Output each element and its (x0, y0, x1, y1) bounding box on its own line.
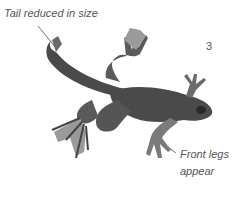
tail-tip (52, 36, 62, 52)
tail (46, 40, 130, 98)
front-leg-left (146, 118, 178, 158)
front-legs-label-line1: Front legs (180, 148, 229, 161)
front-legs-label-line2: appear (180, 165, 214, 178)
front-leg-right (184, 74, 206, 98)
tail-leader-line (38, 26, 56, 48)
eye (196, 106, 206, 114)
tail-label: Tail reduced in size (4, 7, 98, 20)
stage-number: 3 (206, 40, 212, 52)
